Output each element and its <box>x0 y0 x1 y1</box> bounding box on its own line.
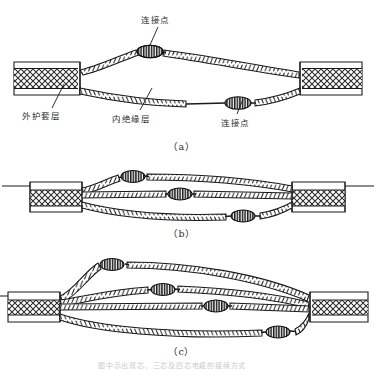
panel-c-conductor-3 <box>60 300 309 312</box>
panel-a-splice-bottom <box>225 97 251 109</box>
panel-b-right-cable <box>292 182 374 212</box>
panel-a-conductor-top <box>80 50 299 78</box>
caption-panel-a: （a） <box>168 139 195 153</box>
panel-c-conductor-4 <box>60 313 309 338</box>
panel-c-left-cable <box>0 292 60 322</box>
panel-b-conductor-middle <box>82 188 292 200</box>
panel-b-conductor-bottom <box>82 202 292 222</box>
panel-a-splice-top <box>137 45 163 57</box>
figure-footnote: 图中示出双芯、三芯及四芯电缆的接续方式 <box>98 360 246 370</box>
panel-c-right-cable <box>310 292 368 322</box>
label-outer-sheath-layer: 外护套层 <box>22 112 60 121</box>
caption-panel-c: （c） <box>168 344 195 358</box>
panel-a-conductor-bottom <box>80 88 300 107</box>
panel-b-left-cable <box>2 182 82 212</box>
caption-panel-b: （b） <box>168 226 196 240</box>
panel-a-right-cable <box>300 62 362 95</box>
leader-splice-top <box>150 27 158 45</box>
panel-a <box>14 27 362 114</box>
label-connection-point-top: 连接点 <box>141 16 170 25</box>
panel-a-left-cable <box>14 62 80 95</box>
panel-c <box>0 259 368 339</box>
label-inner-insulation-layer: 内绝缘层 <box>112 115 150 124</box>
label-connection-point-bottom: 连接点 <box>221 119 250 128</box>
panel-b <box>2 171 374 223</box>
